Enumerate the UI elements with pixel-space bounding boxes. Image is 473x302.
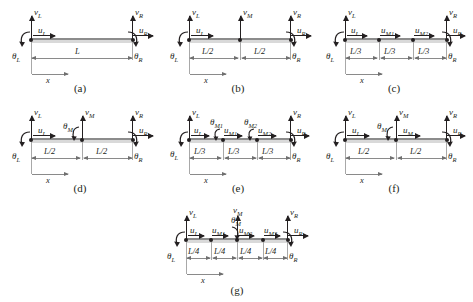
thetaM1-label: θM1 bbox=[210, 118, 223, 129]
dimension-line-2 bbox=[381, 58, 412, 59]
vR-label: vR bbox=[290, 208, 298, 219]
dimension-label-3: L/3 bbox=[262, 147, 273, 156]
uM3-label: uM3 bbox=[264, 226, 277, 237]
dimension-label-2: L/2 bbox=[96, 147, 107, 156]
uL-label: uL bbox=[194, 126, 202, 137]
thetaL-label: θL bbox=[170, 52, 178, 63]
x-axis-label: x bbox=[201, 276, 205, 285]
thetaM2-label: θM2 bbox=[244, 118, 257, 129]
dimension-label-1: L/3 bbox=[350, 47, 361, 56]
dimension-line-1 bbox=[190, 158, 221, 159]
dimension-line-1 bbox=[346, 158, 394, 159]
thetaR-label: θR bbox=[292, 152, 300, 163]
thetaL-label: θL bbox=[12, 152, 20, 163]
thetaR-arc-icon bbox=[282, 28, 300, 50]
thetaM-label: θM bbox=[377, 122, 387, 133]
panel-a: vL uL θL vR uR θR L x (a) bbox=[0, 0, 158, 98]
dimension-label-4: L/4 bbox=[265, 247, 276, 256]
thetaR-arc-icon bbox=[279, 228, 297, 250]
vL-label: vL bbox=[348, 8, 356, 19]
vL-label: vL bbox=[192, 8, 200, 19]
thetaL-label: θL bbox=[326, 52, 334, 63]
x-axis-arrow bbox=[190, 174, 226, 175]
vR-label: vR bbox=[293, 8, 301, 19]
panel-g: vL uL θL uM1 vM θM uM2 uM3 vR uR θR L/4 … bbox=[155, 200, 330, 302]
dimension-label-2: L/3 bbox=[384, 47, 395, 56]
panel-caption-b: (b) bbox=[218, 82, 258, 94]
dimension-label-2: L/3 bbox=[228, 147, 239, 156]
vR-label: vR bbox=[135, 108, 143, 119]
panel-caption-d: (d) bbox=[60, 182, 100, 194]
thetaL-label: θL bbox=[170, 150, 178, 161]
dimension-line-4 bbox=[264, 258, 287, 259]
x-axis-label: x bbox=[204, 176, 208, 185]
thetaR-arc-icon bbox=[282, 128, 300, 150]
thetaR-label: θR bbox=[134, 152, 142, 163]
uM2-label: uM2 bbox=[258, 126, 271, 137]
thetaM-label: θM bbox=[63, 122, 73, 133]
panel-caption-g: (g) bbox=[217, 284, 257, 296]
thetaR-arc-icon bbox=[438, 128, 456, 150]
vR-label: vR bbox=[449, 8, 457, 19]
x-axis-arrow bbox=[346, 174, 382, 175]
dimension-line-3 bbox=[259, 158, 290, 159]
dimension-line-2 bbox=[225, 158, 256, 159]
x-axis-arrow bbox=[32, 74, 68, 75]
x-axis-label: x bbox=[204, 76, 208, 85]
beam-bar bbox=[345, 38, 447, 43]
uM1-label: uM1 bbox=[212, 226, 225, 237]
x-axis-arrow bbox=[190, 74, 226, 75]
beam-bar bbox=[31, 38, 133, 43]
uM1-label: uM1 bbox=[381, 26, 394, 37]
dimension-line-L bbox=[32, 58, 132, 59]
dimension-line-2 bbox=[213, 258, 236, 259]
dimension-line-3 bbox=[415, 58, 446, 59]
panel-f: vL uL θL vM θM uM vR uR θR L/2 L/2 x (f) bbox=[314, 100, 473, 198]
panel-c: vL uL θL uM1 uM2 vR uR θR L/3 L/3 L/3 x … bbox=[314, 0, 473, 98]
thetaR-label: θR bbox=[448, 152, 456, 163]
dimension-label-2: L/2 bbox=[410, 147, 421, 156]
thetaR-arc-icon bbox=[438, 28, 456, 50]
thetaR-label: θR bbox=[448, 52, 456, 63]
thetaL-label: θL bbox=[167, 252, 175, 263]
dimension-label-1: L/2 bbox=[44, 147, 55, 156]
uL-label: uL bbox=[196, 26, 204, 37]
thetaL-label: θL bbox=[12, 52, 20, 63]
panel-e: vL uL θL θM1 uM1 θM2 uM2 vR uR θR L/3 L/… bbox=[158, 100, 316, 198]
x-axis-arrow bbox=[346, 74, 382, 75]
dimension-label-3: L/4 bbox=[240, 247, 251, 256]
dimension-line-2 bbox=[242, 58, 290, 59]
dimension-line-1 bbox=[32, 158, 80, 159]
dimension-label-1: L/2 bbox=[358, 147, 369, 156]
vM-arrow bbox=[240, 16, 241, 40]
vL-label: vL bbox=[348, 108, 356, 119]
uL-label: uL bbox=[38, 26, 46, 37]
panel-caption-e: (e) bbox=[218, 182, 258, 194]
vM-label: vM bbox=[243, 8, 252, 19]
vL-label: vL bbox=[34, 108, 42, 119]
dimension-label-3: L/3 bbox=[418, 47, 429, 56]
x-axis-label: x bbox=[360, 76, 364, 85]
panel-caption-f: (f) bbox=[374, 182, 414, 194]
panel-caption-a: (a) bbox=[60, 82, 100, 94]
dimension-line-1 bbox=[346, 58, 377, 59]
vM-label: vM bbox=[399, 108, 408, 119]
vL-label: vL bbox=[34, 8, 42, 19]
x-axis-label: x bbox=[360, 176, 364, 185]
vR-label: vR bbox=[293, 108, 301, 119]
uM2-label: uM2 bbox=[415, 26, 428, 37]
uL-label: uL bbox=[351, 26, 359, 37]
dimension-label-L: L bbox=[75, 47, 80, 56]
dimension-label-1: L/4 bbox=[188, 247, 199, 256]
uM1-label: uM1 bbox=[224, 126, 237, 137]
dimension-line-2 bbox=[398, 158, 446, 159]
panel-caption-c: (c) bbox=[374, 82, 414, 94]
dimension-label-2: L/2 bbox=[254, 47, 265, 56]
dimension-line-1 bbox=[187, 258, 210, 259]
uL-label: uL bbox=[190, 226, 198, 237]
dimension-label-1: L/3 bbox=[194, 147, 205, 156]
thetaR-arc-icon bbox=[124, 128, 142, 150]
dimension-line-3 bbox=[239, 258, 262, 259]
x-axis-label: x bbox=[46, 176, 50, 185]
panel-b: vL uL θL vM vR uR θR L/2 L/2 x (b) bbox=[158, 0, 316, 98]
